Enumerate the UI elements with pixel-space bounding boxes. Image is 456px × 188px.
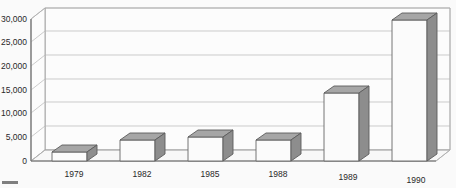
bar-front-face (52, 152, 87, 161)
category-label: 1982 (133, 169, 152, 179)
bar-front-face (392, 20, 427, 161)
y-tick-label: 10,000 (1, 108, 27, 118)
y-tick-label: 25,000 (1, 37, 27, 47)
scan-artifact (2, 181, 18, 184)
bar-front-face (188, 137, 223, 161)
category-label: 1979 (65, 169, 84, 179)
y-tick-label: 30,000 (1, 14, 27, 24)
category-label: 1988 (269, 169, 288, 179)
bar-front-face (324, 93, 359, 161)
bar-1990[interactable] (392, 13, 437, 161)
category-label: 1989 (339, 172, 358, 182)
bar-front-face (120, 140, 155, 161)
bar-1985[interactable] (188, 130, 233, 161)
bar-front-face (256, 140, 291, 161)
y-tick-label: 20,000 (1, 61, 27, 71)
bar-1989[interactable] (324, 86, 369, 161)
bar-1988[interactable] (256, 133, 301, 161)
bar-1979[interactable] (52, 145, 97, 161)
bar-1982[interactable] (120, 133, 165, 161)
chart-screenshot: 30,000 25,000 20,000 15,000 10,000 5,000… (0, 0, 456, 188)
bar-side-face (359, 86, 369, 161)
y-tick-label: 15,000 (1, 85, 27, 95)
x-axis-categories: 1979 1982 1985 1988 1989 1990 (65, 169, 426, 185)
bar-chart: 30,000 25,000 20,000 15,000 10,000 5,000… (0, 0, 456, 188)
y-tick-label: 5,000 (6, 132, 28, 142)
y-tick-label: 0 (22, 156, 27, 166)
category-label: 1990 (407, 175, 426, 185)
y-axis-ticks: 30,000 25,000 20,000 15,000 10,000 5,000… (1, 14, 27, 166)
bar-side-face (427, 13, 437, 161)
category-label: 1985 (201, 169, 220, 179)
